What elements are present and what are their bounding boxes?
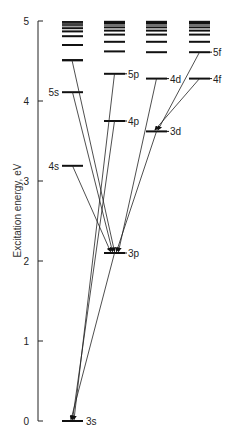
transition-arrow: [158, 52, 200, 130]
level-label: 3d: [170, 126, 181, 137]
transition-arrow: [73, 92, 113, 251]
level-label: 3p: [128, 248, 140, 259]
level-label: 4s: [48, 161, 59, 172]
y-axis-tick-label: 5: [23, 16, 29, 27]
level-label: 4f: [213, 74, 222, 85]
level-label: 5p: [128, 69, 140, 80]
transition-arrow: [119, 79, 157, 252]
level-label: 5s: [48, 87, 59, 98]
y-axis-label: Excitation energy, eV: [12, 136, 23, 286]
level-label: 4p: [128, 116, 140, 127]
energy-level-diagram: Excitation energy, eV 0123453s4s5s3p4p5p…: [0, 0, 233, 433]
transition-arrow: [72, 60, 115, 251]
level-label: 5f: [213, 47, 222, 58]
y-axis-tick-label: 2: [23, 256, 29, 267]
level-label: 4d: [170, 74, 181, 85]
y-axis-tick-label: 0: [23, 416, 29, 427]
y-axis-tick-label: 3: [23, 176, 29, 187]
y-axis-tick-label: 1: [23, 336, 29, 347]
diagram-canvas: 0123453s4s5s3p4p5p3d4d4f5f: [0, 0, 233, 433]
level-label: 3s: [86, 416, 97, 427]
y-axis-tick-label: 4: [23, 96, 29, 107]
